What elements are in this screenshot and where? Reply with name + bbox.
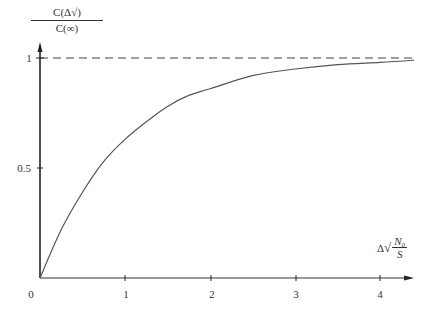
x-axis-label-prefix: Δ xyxy=(377,242,384,254)
x-axis-arrow-icon xyxy=(404,276,414,281)
x-tick-label-4: 4 xyxy=(377,288,383,300)
y-axis-label-denominator: C(∞) xyxy=(31,21,103,35)
y-axis-label: C(Δ√) C(∞) xyxy=(31,6,103,35)
x-axis-label-numerator: N₀ xyxy=(392,235,407,248)
x-tick-label-2: 2 xyxy=(209,288,215,300)
data-curve xyxy=(40,60,414,278)
sqrt-icon: √ xyxy=(384,240,391,256)
x-tick-label-0: 0 xyxy=(28,288,34,300)
x-axis-label-denominator: S xyxy=(397,248,403,260)
chart-plot-area: 1 0.5 0 1 2 3 4 xyxy=(0,0,437,311)
x-axis-label: Δ √ N₀ S xyxy=(377,235,407,260)
x-tick-label-3: 3 xyxy=(293,288,299,300)
x-axis-label-fraction: N₀ S xyxy=(392,235,407,260)
y-axis-label-numerator: C(Δ√) xyxy=(31,6,103,21)
x-tick-label-1: 1 xyxy=(123,288,129,300)
y-tick-label-1: 1 xyxy=(26,52,32,64)
y-tick-label-0-5: 0.5 xyxy=(17,162,31,174)
y-axis-arrow-icon xyxy=(38,42,43,52)
